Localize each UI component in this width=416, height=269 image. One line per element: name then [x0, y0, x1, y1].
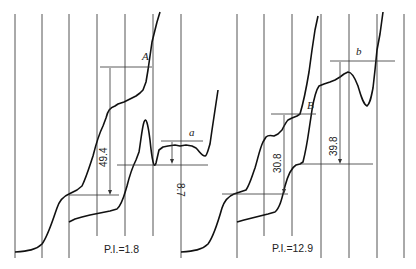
height-a-value: 8.7	[175, 183, 186, 197]
left-second-curve	[69, 90, 218, 222]
label-b: b	[356, 45, 362, 57]
height-B-value: 30.8	[272, 153, 283, 173]
height-A-value: 49.4	[98, 147, 109, 167]
polarogram-figure: A 49.4 a 8.7 P.I.=1.8 B 30.8 b 39.8 P.I.…	[0, 0, 416, 269]
left-panel: A 49.4 a 8.7 P.I.=1.8	[15, 12, 218, 255]
label-A: A	[141, 50, 149, 62]
right-second-curve	[237, 12, 383, 222]
label-B: B	[307, 99, 314, 111]
label-a: a	[189, 126, 195, 138]
right-panel-caption: P.I.=12.9	[272, 242, 313, 254]
right-base-curve	[181, 16, 318, 252]
vertical-grid-lines	[15, 14, 404, 258]
left-panel-caption: P.I.=1.8	[104, 243, 139, 255]
right-panel: B 30.8 b 39.8 P.I.=12.9	[181, 12, 395, 254]
height-b-value: 39.8	[328, 136, 339, 156]
